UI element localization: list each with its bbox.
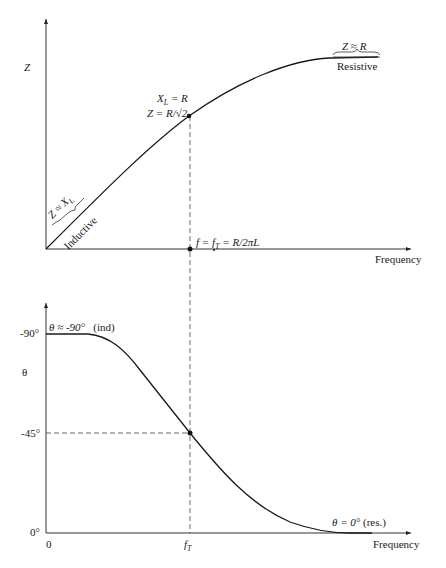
diagram-graphics <box>0 0 446 568</box>
theta-axis-label: θ <box>22 367 27 378</box>
ft-dot <box>188 247 193 252</box>
high-freq-phase-label: θ = 0° (res.) <box>332 517 386 528</box>
bottom-axes <box>46 303 411 533</box>
low-freq-phase-label: θ ≈ -90° (ind) <box>49 322 115 333</box>
minus45-dot <box>188 431 193 436</box>
y-tick-minus90: -90° <box>20 328 39 339</box>
midpoint-dot <box>187 114 192 119</box>
top-x-axis-label: Frequency <box>375 254 421 265</box>
corner-frequency-label: f = fT = R/2πL <box>196 237 259 248</box>
x-tick-ft: fT <box>184 539 192 550</box>
y-tick-minus45: -45° <box>21 428 40 439</box>
bottom-x-axis-label: Frequency <box>373 539 419 550</box>
midpoint-line1: XL = R <box>157 93 188 104</box>
resistive-label: Resistive <box>337 61 377 72</box>
z-axis-label: Z <box>24 62 30 73</box>
high-freq-formula: Z ≈ R <box>342 41 366 52</box>
phase-curve <box>46 334 372 533</box>
midpoint-line2: Z = R/√2 <box>147 108 187 119</box>
x-tick-0: 0 <box>46 539 52 550</box>
top-axes <box>46 19 411 249</box>
y-tick-0: 0° <box>30 527 40 538</box>
